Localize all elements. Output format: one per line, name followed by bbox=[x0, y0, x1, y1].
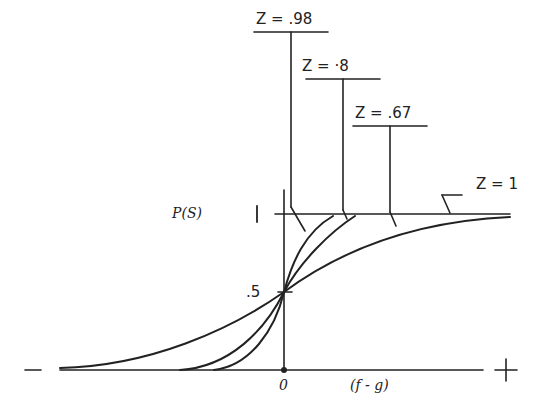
x-axis-label: (f - g) bbox=[350, 377, 389, 393]
label-z-0.8: Z = ·8 bbox=[302, 57, 349, 75]
x-origin-label: 0 bbox=[279, 377, 288, 393]
label-z-0.67: Z = .67 bbox=[355, 104, 411, 122]
origin-dot bbox=[281, 367, 287, 373]
curve-z-0.67 bbox=[180, 216, 355, 370]
y-axis-label: P(S) bbox=[171, 205, 202, 221]
y-tick-half-label: .5 bbox=[246, 283, 260, 301]
sigmoid-diagram: Z = .98 Z = ·8 Z = .67 Z = 1 P(S) .5 0 (… bbox=[0, 0, 556, 406]
leader-tip-z-1 bbox=[442, 195, 450, 213]
label-z-0.98: Z = .98 bbox=[256, 10, 312, 28]
curve-z-1 bbox=[60, 217, 510, 368]
label-z-1: Z = 1 bbox=[476, 175, 518, 193]
curve-z-0.8 bbox=[214, 216, 333, 370]
leader-tip-z-0.98 bbox=[291, 207, 305, 231]
